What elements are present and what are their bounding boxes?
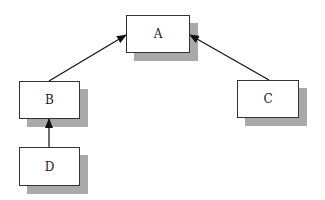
node-c-label: C (263, 92, 272, 106)
node-c: C (237, 80, 299, 118)
node-b-label: B (45, 93, 54, 107)
node-d: D (19, 147, 80, 186)
node-b: B (19, 81, 80, 119)
node-a: A (126, 15, 190, 53)
edge-c-to-a (190, 35, 269, 80)
node-d-label: D (45, 160, 55, 174)
edge-b-to-a (49, 35, 126, 81)
node-a-label: A (154, 27, 163, 41)
diagram-canvas: A B C D (0, 0, 325, 200)
